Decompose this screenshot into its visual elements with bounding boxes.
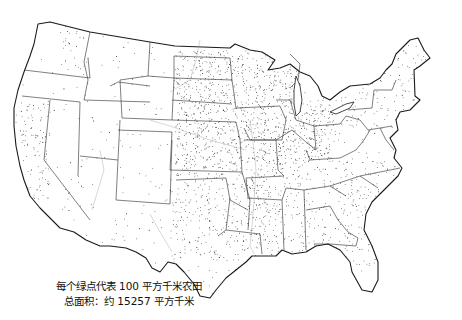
farmland-dot (347, 120, 348, 121)
farmland-dot (323, 240, 324, 241)
farmland-dot (22, 134, 23, 135)
farmland-dot (384, 119, 385, 120)
farmland-dot (265, 56, 266, 57)
farmland-dot (179, 139, 180, 140)
farmland-dot (361, 98, 362, 99)
farmland-dot (329, 144, 330, 145)
farmland-dot (92, 117, 93, 118)
us-outline (14, 22, 430, 298)
farmland-dot (259, 89, 260, 90)
farmland-dot (263, 71, 264, 72)
farmland-dot (288, 137, 289, 138)
farmland-dot (281, 128, 282, 129)
farmland-dot (323, 98, 324, 99)
farmland-dot (184, 87, 185, 88)
farmland-dot (327, 159, 328, 160)
farmland-dot (253, 152, 254, 153)
farmland-dot (204, 168, 205, 169)
farmland-dot (248, 206, 249, 207)
farmland-dot (261, 119, 262, 120)
farmland-dot (218, 164, 219, 165)
farmland-dot (123, 236, 124, 237)
farmland-dot (299, 186, 300, 187)
farmland-dot (175, 227, 176, 228)
farmland-dot (348, 194, 349, 195)
farmland-dot (186, 142, 187, 143)
farmland-dot (309, 122, 310, 123)
farmland-dot (190, 80, 191, 81)
farmland-dot (176, 82, 177, 83)
farmland-dot (241, 55, 242, 56)
farmland-dot (257, 187, 258, 188)
farmland-dot (235, 163, 236, 164)
farmland-dot (256, 234, 257, 235)
farmland-dot (280, 98, 281, 99)
farmland-dot (68, 199, 69, 200)
farmland-dot (319, 209, 320, 210)
farmland-dot (276, 164, 277, 165)
farmland-dot (242, 59, 243, 60)
farmland-dot (176, 127, 177, 128)
farmland-dot (367, 93, 368, 94)
farmland-dot (185, 112, 186, 113)
farmland-dot (66, 38, 67, 39)
farmland-dot (246, 147, 247, 148)
farmland-dot (264, 112, 265, 113)
farmland-dot (206, 143, 207, 144)
farmland-dot (234, 86, 235, 87)
farmland-dot (216, 251, 217, 252)
farmland-dot (295, 139, 296, 140)
farmland-dot (43, 170, 44, 171)
farmland-dot (335, 131, 336, 132)
farmland-dot (130, 147, 131, 148)
farmland-dot (246, 93, 247, 94)
farmland-dot (274, 203, 275, 204)
farmland-dot (348, 198, 349, 199)
farmland-dot (317, 143, 318, 144)
farmland-dot (178, 112, 179, 113)
farmland-dot (31, 128, 32, 129)
farmland-dot (155, 114, 156, 115)
farmland-dot (48, 181, 49, 182)
farmland-dot (295, 130, 296, 131)
farmland-dot (278, 136, 279, 137)
farmland-dot (206, 144, 207, 145)
farmland-dot (43, 132, 44, 133)
farmland-dot (292, 102, 293, 103)
farmland-dot (412, 74, 413, 75)
farmland-dot (251, 131, 252, 132)
farmland-dot (222, 148, 223, 149)
farmland-dot (182, 54, 183, 55)
farmland-dot (425, 59, 426, 60)
farmland-dot (213, 156, 214, 157)
farmland-dot (307, 105, 308, 106)
farmland-dot (77, 31, 78, 32)
farmland-dot (305, 218, 306, 219)
farmland-dot (274, 80, 275, 81)
farmland-dot (239, 175, 240, 176)
farmland-dot (189, 86, 190, 87)
farmland-dot (265, 114, 266, 115)
farmland-dot (21, 111, 22, 112)
farmland-dot (219, 176, 220, 177)
farmland-dot (268, 120, 269, 121)
farmland-dot (275, 169, 276, 170)
farmland-dot (114, 84, 115, 85)
farmland-dot (300, 166, 301, 167)
farmland-dot (333, 186, 334, 187)
farmland-dot (304, 135, 305, 136)
farmland-dot (227, 62, 228, 63)
farmland-dot (269, 163, 270, 164)
farmland-dot (296, 126, 297, 127)
farmland-dot (320, 105, 321, 106)
farmland-dot (229, 244, 230, 245)
farmland-dot (214, 102, 215, 103)
farmland-dot (283, 71, 284, 72)
farmland-dot (316, 135, 317, 136)
farmland-dot (200, 117, 201, 118)
farmland-dot (243, 79, 244, 80)
farmland-dot (243, 64, 244, 65)
farmland-dot (325, 110, 326, 111)
farmland-dot (328, 118, 329, 119)
farmland-dot (364, 194, 365, 195)
